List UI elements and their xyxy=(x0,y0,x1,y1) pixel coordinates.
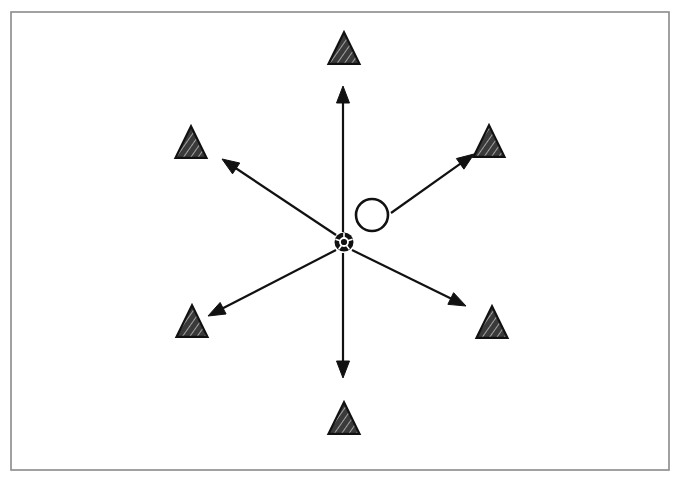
diagram-canvas xyxy=(0,0,687,494)
figure-root xyxy=(0,0,687,494)
soccer-ball-marker xyxy=(335,233,354,252)
